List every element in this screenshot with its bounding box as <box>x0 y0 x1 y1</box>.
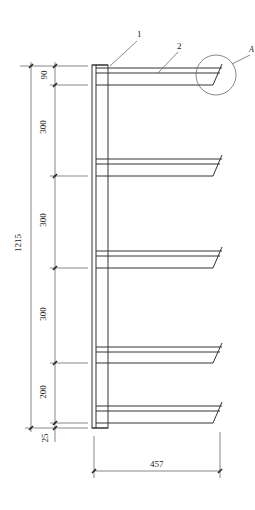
arm-1 <box>96 64 222 85</box>
leader-1 <box>110 41 137 66</box>
arm-5 <box>96 402 222 423</box>
detail-circle <box>196 55 236 95</box>
detail-leader <box>232 55 250 64</box>
dim-overall-height: 1215 <box>13 234 23 252</box>
dim-arm-length: 457 <box>150 459 164 469</box>
dim-segment-90: 90 <box>39 71 49 80</box>
dim-segment-300a: 300 <box>38 120 48 134</box>
callout-2-label: 2 <box>177 41 182 51</box>
dim-segment-300b: 300 <box>38 213 48 227</box>
arm-4 <box>96 343 222 363</box>
callout-detail-label: A <box>249 45 254 54</box>
dim-segment-25: 25 <box>40 434 50 443</box>
leader-2 <box>158 52 178 73</box>
callout-1-label: 1 <box>137 29 142 39</box>
dim-segment-300c: 300 <box>38 307 48 321</box>
extension-lines <box>20 66 220 478</box>
column <box>92 65 108 428</box>
dimension-lines <box>31 62 220 471</box>
arm-3 <box>96 247 222 268</box>
arm-2 <box>96 155 222 176</box>
dim-segment-200: 200 <box>38 385 48 399</box>
